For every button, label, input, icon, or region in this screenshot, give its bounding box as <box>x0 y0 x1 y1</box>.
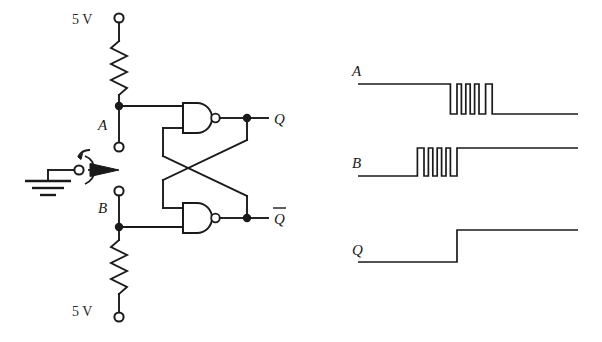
output-qbar-label: Q <box>274 211 285 227</box>
waveform-q-label: Q <box>352 242 363 258</box>
waveform-b-trace <box>358 148 578 176</box>
bottom-supply-branch: 5 V <box>72 227 127 322</box>
figure-container: 5 V A <box>0 0 602 342</box>
circuit-schematic: 5 V A <box>25 12 286 322</box>
waveform-a: A <box>351 63 578 114</box>
cross-wire-diagonal-1 <box>163 156 247 196</box>
input-a-terminal[interactable] <box>114 142 123 151</box>
vcc-top-terminal[interactable] <box>114 13 123 22</box>
waveform-q: Q <box>352 230 578 262</box>
waveform-b: B <box>352 148 578 176</box>
top-supply-branch: 5 V <box>72 12 127 106</box>
node-a-group: A <box>97 102 183 152</box>
pulldown-resistor-b <box>111 240 127 294</box>
cross-wire-diagonal-2 <box>163 140 247 180</box>
input-b-terminal[interactable] <box>114 186 123 195</box>
circuit-and-timing-diagram: 5 V A <box>0 0 602 342</box>
switch-pointer-arrowhead-icon <box>90 164 119 177</box>
waveform-q-trace <box>358 230 578 262</box>
nand-gate-top-body <box>183 103 212 133</box>
vcc-bottom-terminal[interactable] <box>114 312 123 321</box>
cross-coupling-wires <box>163 118 247 218</box>
waveform-a-label: A <box>351 63 362 79</box>
waveform-a-trace <box>358 84 578 114</box>
nand-gate-top-inversion-bubble-icon <box>211 114 220 123</box>
vcc-top-label: 5 V <box>72 12 92 27</box>
nand-gate-bottom-body <box>183 203 212 233</box>
input-b-label: B <box>98 200 107 216</box>
nand-gate-top <box>163 103 247 133</box>
output-qbar-group: Q <box>243 208 286 227</box>
vcc-bottom-label: 5 V <box>72 304 92 319</box>
nand-gate-bottom <box>163 203 247 233</box>
waveform-b-label: B <box>352 155 361 171</box>
ground-switch-assembly <box>25 150 119 195</box>
output-q-label: Q <box>274 111 285 127</box>
nand-gate-bottom-inversion-bubble-icon <box>211 214 220 223</box>
pullup-resistor-a <box>111 41 127 95</box>
switch-pivot[interactable] <box>74 165 83 174</box>
input-a-label: A <box>97 117 108 133</box>
output-q-group: Q <box>243 111 285 127</box>
timing-diagram: A B Q <box>351 63 578 262</box>
